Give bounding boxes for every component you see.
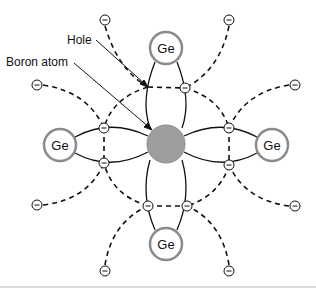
ge-atom-right: Ge	[256, 129, 288, 161]
ge-atom-left: Ge	[44, 129, 76, 161]
electron-icon	[224, 15, 234, 25]
ge-label: Ge	[51, 138, 68, 153]
boron-doped-germanium-diagram: Hole Boron atom Ge Ge Ge Ge	[0, 0, 316, 295]
ge-label: Ge	[157, 41, 174, 56]
electron-icon	[224, 266, 234, 276]
electron-icon	[224, 123, 234, 133]
electron-icon	[224, 160, 234, 170]
electron-icon	[32, 80, 42, 90]
electron-icon	[182, 201, 192, 211]
electron-icon	[290, 80, 300, 90]
electron-icon	[99, 158, 109, 168]
hole-label: Hole	[67, 33, 92, 47]
boron-atom	[147, 125, 185, 163]
electron-icon	[100, 266, 110, 276]
electron-icon	[100, 15, 110, 25]
electron-icon	[143, 201, 153, 211]
boron-atom-label: Boron atom	[6, 55, 68, 69]
label-pointers	[74, 40, 152, 130]
electron-icon	[180, 83, 190, 93]
ge-label: Ge	[263, 138, 280, 153]
electron-icon	[99, 123, 109, 133]
electron-icon	[290, 201, 300, 211]
electron-icon	[32, 200, 42, 210]
ge-atom-top: Ge	[150, 32, 182, 64]
ge-label: Ge	[157, 237, 174, 252]
ge-atom-bottom: Ge	[150, 228, 182, 260]
